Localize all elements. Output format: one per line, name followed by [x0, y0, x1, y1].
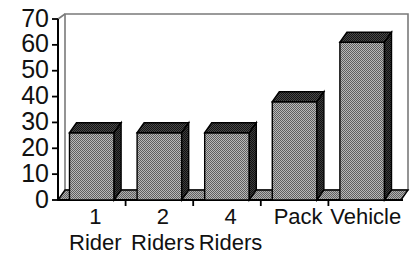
chart-canvas: 010203040506070 1Rider2Riders4RidersPack… — [0, 0, 420, 256]
bar — [137, 123, 189, 200]
bar — [340, 32, 392, 200]
bar-side-face — [182, 123, 189, 200]
y-tick-label: 40 — [21, 81, 49, 109]
bar-front-face — [137, 133, 182, 200]
x-tick-label: Vehicle — [330, 204, 401, 229]
bar — [205, 123, 257, 200]
x-tick-label: Riders — [199, 230, 263, 255]
bar — [69, 123, 121, 200]
bar-front-face — [340, 42, 385, 200]
bar-top-face — [137, 123, 189, 133]
bar-side-face — [385, 32, 392, 200]
bar-top-face — [69, 123, 121, 133]
x-tick-label: 1 — [89, 204, 101, 229]
bar-front-face — [205, 133, 250, 200]
y-tick-label: 70 — [21, 4, 49, 32]
bar-top-face — [205, 123, 257, 133]
x-tick-label: Pack — [274, 204, 324, 229]
y-tick-label: 20 — [21, 133, 49, 161]
x-tick-label: Rider — [69, 230, 122, 255]
y-tick-label: 30 — [21, 107, 49, 135]
bar-side-face — [317, 92, 324, 200]
y-tick-label: 10 — [21, 159, 49, 187]
bar-front-face — [272, 102, 317, 200]
bar-side-face — [114, 123, 121, 200]
bar-top-face — [340, 32, 392, 42]
y-tick-label: 0 — [35, 185, 49, 213]
x-tick-label: 2 — [157, 204, 169, 229]
bar-front-face — [69, 133, 114, 200]
bar-top-face — [272, 92, 324, 102]
x-tick-label: 4 — [224, 204, 236, 229]
y-tick-label: 50 — [21, 55, 49, 83]
x-tick-label: Riders — [131, 230, 195, 255]
bar-side-face — [249, 123, 256, 200]
y-tick-label: 60 — [21, 29, 49, 57]
bar — [272, 92, 324, 200]
bar-chart: 010203040506070 1Rider2Riders4RidersPack… — [0, 0, 420, 256]
